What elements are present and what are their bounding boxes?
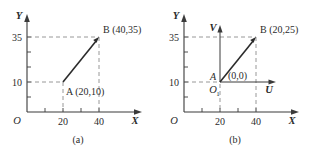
- y-tick-label-10-b: 10: [169, 77, 179, 88]
- caption-a: (a): [72, 134, 83, 146]
- x-axis-arrowhead-a: [134, 109, 142, 115]
- origin-label-a: O: [13, 115, 21, 126]
- x-tick-label-40-b: 40: [251, 116, 261, 127]
- x-tick-label-20-b: 20: [215, 116, 225, 127]
- inner-origin-subscript-b: 1: [216, 90, 220, 98]
- point-label-b-a: B (40,35): [103, 24, 141, 36]
- x-axis-arrowhead-b: [291, 109, 299, 115]
- y-tick-label-35-a: 35: [12, 32, 22, 43]
- inner-origin-label-b: O 1: [209, 84, 220, 98]
- y-axis-arrowhead-b: [181, 14, 187, 22]
- v-axis-label-b: V: [209, 22, 217, 33]
- y-axis-label-b: Y: [173, 10, 181, 21]
- figure-root: Y X O 20 40 10 35 A (20,10) B (40,35) (a…: [0, 0, 315, 149]
- vector-arrowhead-a: [93, 37, 99, 43]
- x-axis-label-b: X: [287, 115, 296, 126]
- x-tick-label-20-a: 20: [58, 116, 68, 127]
- u-axis-label-b: U: [265, 84, 274, 95]
- vector-arrowhead-b: [250, 37, 256, 43]
- x-tick-label-40-a: 40: [94, 116, 104, 127]
- point-label-a-a: A (20,10): [66, 86, 104, 98]
- point-label-origin-uv-b: (0,0): [228, 70, 247, 82]
- vector-ab-a: [63, 41, 97, 83]
- panel-a: Y X O 20 40 10 35 A (20,10) B (40,35) (a…: [0, 0, 157, 149]
- x-axis-label-a: X: [130, 115, 139, 126]
- point-label-a-b: A: [209, 71, 217, 82]
- point-label-b-b: B (20,25): [260, 24, 298, 36]
- panel-b: Y X V U O O 1 20 40 10 35 A (0,0) B (20,…: [157, 0, 314, 149]
- y-axis-label-a: Y: [16, 10, 24, 21]
- y-tick-label-35-b: 35: [169, 32, 179, 43]
- caption-b: (b): [229, 134, 241, 146]
- y-tick-label-10-a: 10: [12, 77, 22, 88]
- v-axis-arrowhead-b: [217, 25, 222, 33]
- y-axis-arrowhead-a: [24, 14, 30, 22]
- origin-label-b: O: [170, 115, 178, 126]
